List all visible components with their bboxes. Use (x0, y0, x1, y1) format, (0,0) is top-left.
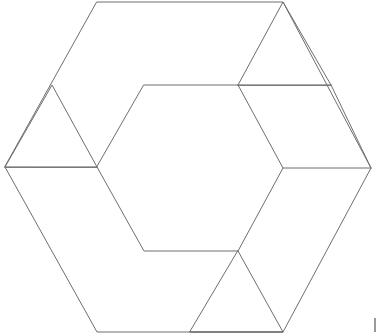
right-margin-tick-icon (374, 318, 376, 332)
figure-canvas (0, 0, 377, 335)
hexagon-tiling-figure (0, 0, 377, 335)
